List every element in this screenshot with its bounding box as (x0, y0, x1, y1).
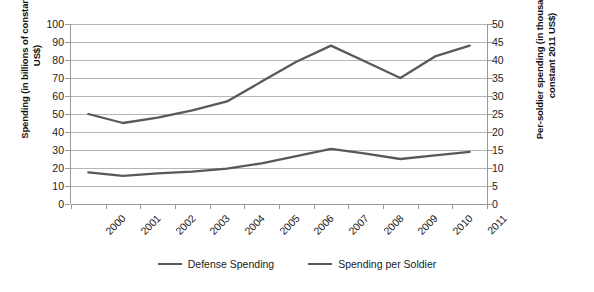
legend-item[interactable]: Defense Spending (158, 258, 274, 270)
x-axis-tick-label: 2002 (172, 212, 197, 237)
y-tick-mark-left (65, 114, 70, 115)
x-axis-tick-label: 2011 (484, 212, 508, 236)
series-line-defense-spending (88, 46, 469, 123)
y-axis-right-tick-label: 45 (492, 36, 518, 48)
y-tick-mark-right (488, 78, 493, 79)
y-tick-mark-right (488, 132, 493, 133)
y-axis-left-tick-label: 20 (38, 162, 64, 174)
y-tick-mark-right (488, 186, 493, 187)
y-tick-mark-left (65, 168, 70, 169)
y-tick-mark-right (488, 204, 493, 205)
y-tick-mark-right (488, 150, 493, 151)
plot-area (70, 24, 488, 204)
y-tick-mark-right (488, 42, 493, 43)
y-axis-left-tick-label: 0 (38, 198, 64, 210)
x-axis-tick-label: 2000 (103, 212, 128, 237)
y-tick-mark-left (65, 150, 70, 151)
x-axis-tick-label: 2007 (346, 212, 371, 237)
y-tick-mark-left (65, 60, 70, 61)
y-axis-right-tick-label: 15 (492, 144, 518, 156)
y-tick-mark-left (65, 24, 70, 25)
x-axis-tick-label: 2010 (450, 212, 475, 237)
y-axis-right-tick-label: 30 (492, 90, 518, 102)
y-axis-right-tick-label: 35 (492, 72, 518, 84)
y-tick-mark-left (65, 96, 70, 97)
y-axis-right-tick-label: 20 (492, 126, 518, 138)
y-tick-mark-right (488, 114, 493, 115)
x-axis-tick-label: 2001 (138, 212, 163, 237)
y-axis-right-title: Per-soldier spending (in thousands of co… (534, 0, 557, 146)
y-axis-left-tick-label: 70 (38, 72, 64, 84)
y-axis-left-tick-label: 30 (38, 144, 64, 156)
y-axis-right-tick-label: 0 (492, 198, 518, 210)
y-axis-right-ticks: 50454035302520151050 (492, 18, 518, 210)
x-axis-tick-label: 2004 (242, 212, 267, 237)
y-tick-mark-right (488, 60, 493, 61)
line-chart: Spending (in billions of constant 2011 U… (0, 0, 594, 292)
y-axis-left-tick-label: 60 (38, 90, 64, 102)
legend-line-swatch-icon (158, 263, 182, 265)
y-axis-left-tick-label: 90 (38, 36, 64, 48)
x-axis-tick-label: 2008 (380, 212, 405, 237)
x-axis-tick-label: 2009 (415, 212, 440, 237)
legend-label: Spending per Soldier (338, 258, 436, 270)
y-tick-mark-right (488, 24, 493, 25)
series-line-spending-per-soldier (88, 149, 469, 176)
y-tick-mark-left (65, 78, 70, 79)
y-tick-mark-right (488, 168, 493, 169)
x-tick-mark (487, 204, 488, 209)
y-axis-left-tick-label: 80 (38, 54, 64, 66)
y-axis-left-ticks: 1009080706050403020100 (38, 18, 64, 210)
y-axis-left-tick-label: 10 (38, 180, 64, 192)
y-axis-right-tick-label: 40 (492, 54, 518, 66)
chart-legend: Defense SpendingSpending per Soldier (0, 258, 594, 270)
y-axis-left-tick-label: 100 (38, 18, 64, 30)
x-axis-tick-label: 2006 (311, 212, 336, 237)
y-tick-mark-left (65, 186, 70, 187)
series-lines (71, 24, 487, 204)
legend-label: Defense Spending (188, 258, 274, 270)
x-axis-tick-label: 2003 (207, 212, 232, 237)
legend-line-swatch-icon (308, 263, 332, 265)
y-axis-left-tick-label: 40 (38, 126, 64, 138)
y-tick-mark-left (65, 132, 70, 133)
legend-item[interactable]: Spending per Soldier (308, 258, 436, 270)
y-axis-right-tick-label: 5 (492, 180, 518, 192)
x-axis-tick-labels: 2000200120022003200420052006200720082009… (70, 204, 486, 250)
y-axis-right-tick-label: 10 (492, 162, 518, 174)
y-axis-right-tick-label: 50 (492, 18, 518, 30)
y-axis-left-tick-label: 50 (38, 108, 64, 120)
y-tick-mark-left (65, 42, 70, 43)
y-tick-mark-right (488, 96, 493, 97)
x-axis-tick-label: 2005 (276, 212, 301, 237)
y-axis-right-tick-label: 25 (492, 108, 518, 120)
